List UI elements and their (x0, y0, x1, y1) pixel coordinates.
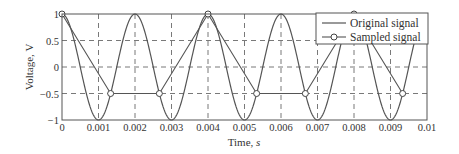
legend-sampled-label: Sampled signal (350, 31, 421, 44)
sample-point-marker-icon (156, 91, 162, 97)
x-tick-label: 0.001 (87, 122, 111, 133)
x-tick-label: 0 (59, 122, 64, 133)
legend-original-label: Original signal (350, 17, 419, 30)
signal-chart: 00.0010.0020.0030.0040.0050.0060.0070.00… (0, 0, 459, 154)
x-tick-label: 0.003 (160, 122, 184, 133)
x-tick-label: 0.004 (196, 122, 220, 133)
y-tick-label: 1 (54, 9, 59, 20)
y-tick-label: −0.5 (40, 89, 59, 100)
legend-sampled-marker-icon (331, 34, 337, 40)
y-axis-ticks: −1−0.500.51 (40, 9, 59, 126)
legend: Original signal Sampled signal (316, 13, 428, 44)
x-axis-label: Time, s (228, 136, 261, 148)
x-tick-label: 0.007 (306, 122, 330, 133)
x-tick-label: 0.002 (123, 122, 147, 133)
x-axis-ticks: 00.0010.0020.0030.0040.0050.0060.0070.00… (59, 122, 436, 133)
x-tick-label: 0.01 (418, 122, 436, 133)
sample-point-marker-icon (108, 91, 114, 97)
y-tick-label: 0 (54, 62, 59, 73)
sample-point-marker-icon (400, 91, 406, 97)
sample-point-marker-icon (254, 91, 260, 97)
y-tick-label: 0.5 (46, 36, 59, 47)
x-tick-label: 0.006 (269, 122, 293, 133)
y-tick-label: −1 (48, 115, 59, 126)
x-tick-label: 0.009 (379, 122, 403, 133)
y-axis-label: Voltage, V (23, 44, 35, 91)
sample-point-marker-icon (302, 91, 308, 97)
x-tick-label: 0.005 (233, 122, 257, 133)
x-tick-label: 0.008 (342, 122, 366, 133)
